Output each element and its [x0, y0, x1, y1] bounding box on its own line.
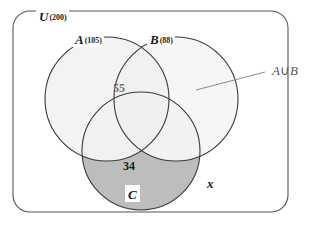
set-count-A: (105) [85, 36, 102, 45]
set-label-B: B(88) [147, 31, 175, 47]
set-circle-B-fill [114, 37, 238, 161]
union-operator-icon: ∪ [280, 63, 290, 78]
region-value-a-intersect-b: 55 [113, 82, 125, 94]
annotation-set-a: A [272, 63, 280, 78]
universal-set-label: U(200) [36, 8, 69, 24]
annotation-a-union-b: A∪B [272, 64, 298, 77]
universal-set-count: (200) [49, 13, 66, 22]
outside-region-label: x [207, 177, 214, 190]
region-value-c-only: 34 [123, 160, 135, 172]
venn-diagram: U(200) A(105) B(88) C 55 34 x A∪B [0, 0, 313, 225]
set-label-C: C [125, 186, 140, 202]
set-letter-A: A [75, 32, 84, 47]
annotation-set-b: B [290, 63, 298, 78]
set-count-B: (88) [160, 36, 173, 45]
universal-set-letter: U [39, 9, 48, 24]
set-letter-B: B [150, 32, 159, 47]
set-letter-C: C [128, 187, 137, 202]
set-label-A: A(105) [72, 31, 104, 47]
